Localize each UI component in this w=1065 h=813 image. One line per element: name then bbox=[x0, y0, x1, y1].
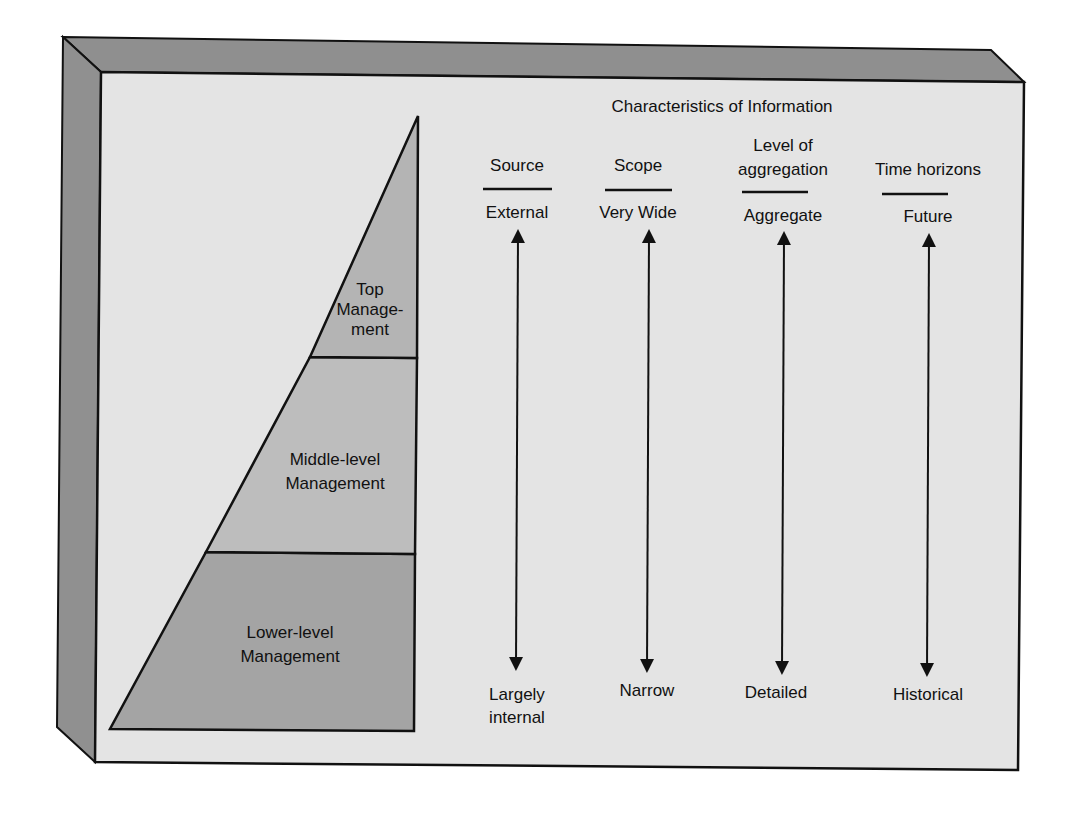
header-line: Level of bbox=[718, 134, 848, 158]
header-line: aggregation bbox=[718, 158, 848, 182]
header-time-horizons: Time horizons bbox=[858, 159, 998, 180]
label-lower-management: Lower-level Management bbox=[210, 621, 370, 669]
label-line: Manage- bbox=[330, 300, 410, 320]
value-scope-bottom: Narrow bbox=[597, 680, 697, 701]
value-scope-top: Very Wide bbox=[578, 202, 698, 223]
value-aggregation-top: Aggregate bbox=[723, 205, 843, 226]
value-line: internal bbox=[467, 706, 567, 729]
label-line: ment bbox=[330, 320, 410, 340]
header-aggregation: Level of aggregation bbox=[718, 134, 848, 182]
header-source: Source bbox=[467, 155, 567, 176]
figure-title: Characteristics of Information bbox=[572, 96, 872, 117]
label-line: Lower-level bbox=[210, 621, 370, 645]
label-line: Management bbox=[255, 472, 415, 496]
value-time-top: Future bbox=[873, 206, 983, 227]
value-source-top: External bbox=[467, 202, 567, 223]
value-line: Largely bbox=[467, 683, 567, 706]
value-aggregation-bottom: Detailed bbox=[716, 682, 836, 703]
value-source-bottom: Largely internal bbox=[467, 683, 567, 729]
label-line: Management bbox=[210, 645, 370, 669]
frame-left-bevel bbox=[57, 37, 101, 762]
value-time-bottom: Historical bbox=[873, 684, 983, 705]
label-line: Top bbox=[330, 280, 410, 300]
label-top-management: Top Manage- ment bbox=[330, 280, 410, 340]
label-line: Middle-level bbox=[255, 448, 415, 472]
header-scope: Scope bbox=[588, 155, 688, 176]
label-middle-management: Middle-level Management bbox=[255, 448, 415, 496]
